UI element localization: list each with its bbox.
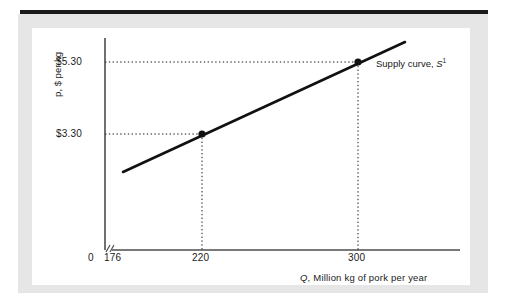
y-tick-label-530: $5.30: [56, 56, 82, 67]
x-axis-variable: Q: [300, 272, 308, 283]
data-point-300-530: [354, 58, 361, 65]
chart-svg: [0, 0, 506, 301]
supply-curve-label: Supply curve, S1: [376, 57, 446, 69]
y-axis-variable: p: [52, 92, 63, 97]
supply-curve-line: [123, 42, 405, 172]
supply-curve-label-prefix: Supply curve,: [376, 58, 436, 69]
x-axis-title: Q, Million kg of pork per year: [300, 272, 427, 283]
x-axis-units: , Million kg of pork per year: [308, 272, 428, 283]
x-tick-label-300: 300: [348, 252, 365, 263]
supply-curve-superscript: 1: [443, 57, 447, 64]
axis-break-mark-1: [106, 245, 110, 252]
x-tick-label-176: 176: [104, 252, 121, 263]
data-point-220-330: [198, 130, 205, 137]
x-tick-label-origin: 0: [88, 252, 94, 263]
y-tick-label-330: $3.30: [56, 128, 82, 139]
x-tick-label-220: 220: [192, 252, 209, 263]
figure-root: p, $ per kg $5.30 $3.30 0 176 220 300 Q,…: [0, 0, 506, 301]
axis-break-mark-2: [110, 245, 114, 252]
